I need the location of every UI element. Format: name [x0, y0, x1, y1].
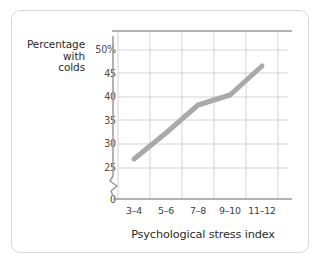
y-axis-line-with-break: [110, 36, 117, 196]
plot-area: [0, 0, 321, 265]
data-series-line: [134, 66, 262, 159]
line-chart: Percentage with colds 50% 45 40 35 30 25…: [0, 0, 321, 265]
grid-lines: [118, 31, 288, 200]
